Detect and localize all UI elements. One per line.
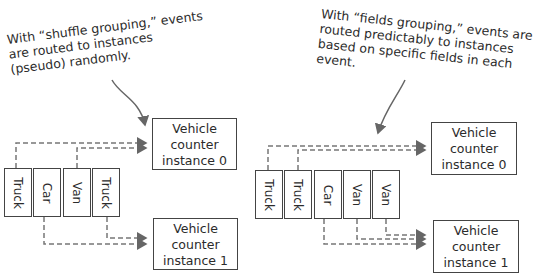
instance-label: Vehicle: [154, 221, 237, 237]
event-card: Truck: [92, 168, 120, 217]
route-van-to-instance0: [77, 148, 146, 168]
instance-label: instance 1: [154, 253, 237, 269]
event-label: Van: [350, 183, 364, 205]
instance-label: instance 0: [432, 157, 516, 173]
event-card: Car: [314, 170, 342, 219]
event-label: Van: [379, 183, 393, 205]
route-car-to-instance1: [44, 217, 146, 244]
route-truck2-to-instance0: [298, 150, 425, 170]
route-car-to-instance1: [324, 219, 425, 244]
event-card: Car: [33, 168, 61, 217]
event-card: Van: [63, 168, 91, 217]
event-card: Van: [372, 170, 400, 219]
instance-label: Vehicle: [153, 121, 236, 137]
instance-label: counter: [154, 237, 237, 253]
route-van1-to-instance1: [357, 219, 425, 239]
instance-label: instance 0: [153, 153, 236, 169]
event-label: Truck: [262, 179, 276, 211]
instance-label: counter: [432, 141, 516, 157]
fields-pointer-arrow: [378, 80, 405, 133]
route-truck-to-instance0: [16, 143, 146, 168]
vehicle-counter-instance-1: Vehicle counter instance 1: [153, 218, 238, 270]
event-card: Truck: [284, 170, 312, 219]
route-van2-to-instance1: [386, 219, 425, 235]
instance-label: Vehicle: [434, 223, 518, 239]
event-card: Van: [343, 170, 371, 219]
event-label: Truck: [99, 177, 113, 209]
event-label: Van: [70, 181, 84, 203]
vehicle-counter-instance-1: Vehicle counter instance 1: [433, 220, 519, 273]
event-label: Car: [321, 184, 335, 205]
vehicle-counter-instance-0: Vehicle counter instance 0: [152, 118, 237, 170]
instance-label: Vehicle: [432, 125, 516, 141]
vehicle-counter-instance-0: Vehicle counter instance 0: [431, 122, 517, 175]
event-label: Truck: [291, 179, 305, 211]
event-card: Truck: [4, 168, 32, 217]
route-truck-to-instance1: [107, 217, 146, 238]
shuffle-pointer-arrow: [112, 80, 145, 125]
instance-label: counter: [153, 137, 236, 153]
instance-label: instance 1: [434, 255, 518, 271]
event-label: Car: [40, 182, 54, 203]
instance-label: counter: [434, 239, 518, 255]
event-card: Truck: [255, 170, 283, 219]
event-label: Truck: [11, 177, 25, 209]
